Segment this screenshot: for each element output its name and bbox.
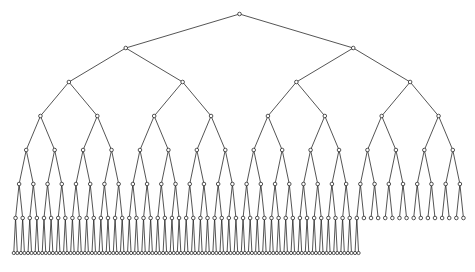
tree-edge (254, 116, 268, 150)
tree-leaf-node (12, 251, 15, 254)
tree-leaf-node (144, 251, 147, 254)
tree-node (14, 216, 18, 220)
tree-node (78, 216, 82, 220)
tree-edge (247, 184, 251, 218)
tree-leaf-node (193, 251, 196, 254)
tree-leaf-node (83, 251, 86, 254)
tree-node (323, 114, 327, 118)
tree-node (131, 182, 135, 186)
tree-edge (83, 150, 90, 184)
tree-edge (446, 184, 450, 218)
tree-edge (215, 184, 219, 218)
tree-edge (101, 218, 103, 253)
tree-leaf-node (265, 251, 268, 254)
tree-edge (375, 184, 379, 218)
tree-leaf-node (119, 251, 122, 254)
tree-edge (264, 218, 266, 253)
tree-edge (357, 218, 359, 253)
tree-node (145, 182, 149, 186)
tree-edge (128, 218, 130, 253)
tree-edge (410, 82, 438, 116)
tree-edge (101, 184, 105, 218)
tree-leaf-node (44, 251, 47, 254)
tree-leaf-node (183, 251, 186, 254)
tree-edge (268, 116, 282, 150)
tree-edge (431, 184, 435, 218)
tree-edge (58, 218, 60, 253)
tree-node (53, 148, 57, 152)
tree-edge (119, 184, 123, 218)
tree-edge (312, 218, 314, 253)
tree-node (24, 148, 28, 152)
tree-edge (104, 150, 111, 184)
tree-edge (417, 184, 421, 218)
tree-edge (460, 184, 464, 218)
tree-edge (328, 218, 330, 253)
tree-node (455, 216, 459, 220)
tree-edge (446, 150, 453, 184)
tree-node (96, 114, 100, 118)
tree-leaf-node (336, 251, 339, 254)
tree-edge (197, 116, 211, 150)
tree-leaf-node (87, 251, 90, 254)
tree-edge (248, 218, 250, 253)
tree-edge (371, 184, 375, 218)
tree-leaf-node (58, 251, 61, 254)
tree-edge (343, 218, 345, 253)
tree-node (280, 148, 284, 152)
tree-node (199, 216, 203, 220)
tree-edge (227, 218, 229, 253)
tree-node (188, 182, 192, 186)
tree-edge (220, 218, 222, 253)
tree-edge (234, 218, 236, 253)
tree-edge (303, 184, 307, 218)
tree-node (234, 216, 238, 220)
tree-edge (399, 184, 403, 218)
tree-node (17, 182, 21, 186)
tree-edge (204, 184, 208, 218)
tree-edge (94, 218, 96, 253)
tree-edge (296, 82, 324, 116)
tree-leaf-node (314, 251, 317, 254)
tree-edge (26, 150, 33, 184)
tree-edge (327, 218, 329, 253)
tree-leaf-node (282, 251, 285, 254)
tree-edge (65, 218, 67, 253)
tree-leaf-node (233, 251, 236, 254)
tree-edge (40, 82, 68, 116)
tree-edge (346, 184, 350, 218)
tree-edge (104, 184, 108, 218)
tree-edge (307, 218, 309, 253)
tree-edge (318, 184, 322, 218)
tree-leaf-node (211, 251, 214, 254)
tree-edge (85, 218, 87, 253)
tree-edge (129, 218, 131, 253)
tree-node (177, 216, 181, 220)
tree-node (120, 216, 124, 220)
tree-leaf-node (293, 251, 296, 254)
tree-leaf-node (158, 251, 161, 254)
tree-leaf-node (304, 251, 307, 254)
tree-edge (213, 218, 215, 253)
tree-leaf-node (112, 251, 115, 254)
tree-edge (161, 184, 165, 218)
tree-edge (69, 82, 97, 116)
tree-leaf-node (34, 251, 37, 254)
tree-edge (58, 184, 62, 218)
tree-leaf-node (272, 251, 275, 254)
tree-leaf-node (19, 251, 22, 254)
tree-edge (314, 218, 316, 253)
tree-edge (396, 150, 403, 184)
tree-edge (151, 218, 153, 253)
tree-leaf-node (133, 251, 136, 254)
tree-edge (28, 218, 30, 253)
tree-edge (14, 218, 16, 253)
tree-node (259, 182, 263, 186)
tree-edge (156, 218, 158, 253)
tree-node (174, 182, 178, 186)
tree-edge (341, 218, 343, 253)
tree-edge (353, 48, 410, 82)
tree-node (149, 216, 153, 220)
tree-edge (343, 184, 347, 218)
tree-leaf-node (297, 251, 300, 254)
